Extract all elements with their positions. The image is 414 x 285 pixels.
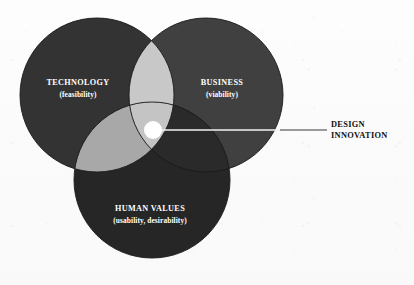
label-business-title: BUSINESS <box>201 78 243 87</box>
venn-diagram-figure: TECHNOLOGY (feasibility) BUSINESS (viabi… <box>0 0 414 285</box>
design-innovation-callout: DESIGN INNOVATION <box>331 119 413 141</box>
label-technology-sub: (feasibility) <box>59 90 96 99</box>
callout-line-2: INNOVATION <box>331 130 413 141</box>
venn-diagram-svg: TECHNOLOGY (feasibility) BUSINESS (viabi… <box>0 0 414 285</box>
label-human-values-title: HUMAN VALUES <box>115 204 185 213</box>
label-business-sub: (viability) <box>206 90 238 99</box>
design-innovation-marker <box>144 121 162 139</box>
label-human-values-sub: (usability, desirability) <box>113 216 187 225</box>
callout-line-1: DESIGN <box>331 119 413 130</box>
label-technology-title: TECHNOLOGY <box>46 78 109 87</box>
